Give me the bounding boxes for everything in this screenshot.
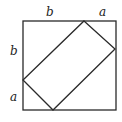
label-top-a: a — [99, 5, 106, 19]
diagram-canvas: b a b a — [0, 0, 122, 122]
label-left-b: b — [10, 44, 18, 58]
label-top-b: b — [46, 5, 54, 19]
label-left-a: a — [10, 90, 17, 104]
inner-rectangle — [23, 21, 115, 110]
